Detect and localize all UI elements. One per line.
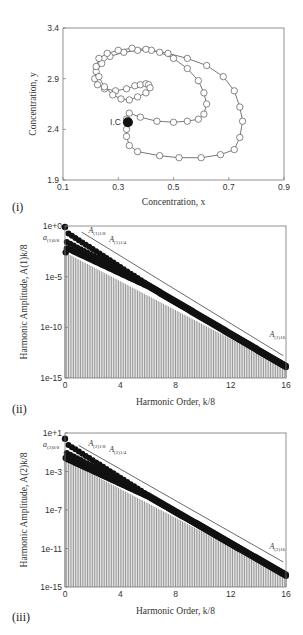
y-tick-label: 1.9: [47, 175, 59, 185]
x-axis-label: Harmonic Order, k/8: [136, 606, 215, 616]
x-tick-label: 8: [173, 589, 178, 599]
x-tick-label: 4: [118, 380, 123, 390]
trajectory-marker: [195, 77, 201, 83]
trajectory-marker: [96, 55, 102, 61]
x-tick-label: 16: [281, 589, 291, 599]
trajectory-marker: [143, 90, 149, 96]
trajectory-marker: [118, 96, 124, 102]
panel-label-i: (i): [12, 200, 23, 214]
trajectory-marker: [201, 90, 207, 96]
annotation-harmonic: A(2)1/8: [87, 439, 106, 449]
y-tick-label: 2.4: [47, 124, 59, 134]
x-tick-label: 8: [173, 380, 178, 390]
trajectory-marker: [94, 82, 100, 88]
x-tick-label: 12: [226, 589, 236, 599]
trajectory-marker: [115, 47, 121, 53]
y-tick-label: 1e-5: [45, 272, 62, 282]
trajectory-marker: [110, 92, 116, 98]
initial-condition-marker: [123, 117, 133, 127]
trajectory-marker: [154, 118, 160, 124]
annotation-dc: a(1)0/8: [43, 233, 60, 243]
y-axis-label: Concentration, y: [28, 72, 38, 136]
trajectory-marker: [129, 45, 135, 51]
trajectory-marker: [237, 104, 243, 110]
x-tick-label: 0.7: [223, 182, 235, 192]
y-tick-label: 1e-7: [45, 505, 62, 515]
trajectory-marker: [198, 155, 204, 161]
trajectory-marker: [104, 50, 110, 56]
trajectory-marker: [123, 86, 129, 92]
annotation-dc: a(2)0/8: [43, 440, 60, 450]
trajectory-marker: [126, 142, 132, 148]
trajectory-marker: [203, 62, 209, 68]
trajectory-marker: [217, 151, 223, 157]
trajectory-marker: [220, 73, 226, 79]
figure-canvas: 0.10.30.50.70.91.92.42.93.4Concentration…: [0, 0, 303, 635]
trajectory-marker: [184, 118, 190, 124]
x-tick-label: 0.5: [168, 182, 180, 192]
trajectory-marker: [165, 50, 171, 56]
harmonic-point: [62, 455, 68, 461]
trajectory-marker: [93, 63, 99, 69]
trajectory-marker: [126, 110, 132, 116]
trajectory-marker: [123, 133, 129, 139]
trajectory-marker: [184, 65, 190, 71]
chart-phase-portrait: 0.10.30.50.70.91.92.42.93.4Concentration…: [12, 23, 290, 214]
trajectory-marker: [184, 55, 190, 61]
initial-condition-label: I.C: [110, 117, 121, 127]
trajectory-marker: [101, 84, 107, 90]
trajectory-marker: [170, 55, 176, 61]
trajectory-marker: [201, 111, 207, 117]
x-axis-label: Concentration, x: [142, 197, 206, 207]
x-tick-label: 0: [63, 380, 68, 390]
trajectory-marker: [156, 152, 162, 158]
chart-harmonic-spectrum-2: 04812161e+11e-31e-71e-111e-15Harmonic Or…: [12, 428, 291, 624]
y-tick-label: 1e+0: [43, 221, 62, 231]
trajectory-marker: [96, 73, 102, 79]
chart-harmonic-spectrum-1: 04812161e+01e-51e-101e-15Harmonic Order,…: [12, 221, 291, 416]
x-axis-label: Harmonic Order, k/8: [136, 397, 215, 407]
x-tick-label: 0: [63, 589, 68, 599]
y-tick-label: 1e-11: [41, 544, 62, 554]
panel-label-ii: (ii): [12, 402, 27, 416]
x-tick-label: 4: [118, 589, 123, 599]
annotation-harmonic: A(1)1/8: [87, 226, 106, 236]
x-tick-label: 0.3: [112, 182, 124, 192]
trajectory-marker: [156, 49, 162, 55]
trajectory-marker: [176, 155, 182, 161]
trajectory-line: [95, 48, 243, 157]
y-tick-label: 1e-15: [40, 373, 62, 383]
y-axis-label: Harmonic Amplitude, A(1)k/8: [19, 244, 30, 359]
y-tick-label: 3.4: [47, 23, 59, 33]
y-tick-label: 2.9: [47, 74, 59, 84]
annotation-harmonic: A(1)16: [268, 330, 285, 340]
annotation-harmonic: A(2)1/4: [108, 445, 127, 455]
trajectory-marker: [170, 119, 176, 125]
trajectory-marker: [231, 88, 237, 94]
trajectory-marker: [143, 46, 149, 52]
annotation-harmonic: A(1)1/4: [108, 235, 127, 245]
trajectory-marker: [134, 94, 140, 100]
x-tick-label: 0.9: [278, 182, 290, 192]
trajectory-marker: [237, 134, 243, 140]
y-axis-label: Harmonic Amplitude, A(2)k/8: [19, 452, 30, 567]
y-tick-label: 1e-3: [45, 467, 62, 477]
trajectory-marker: [137, 114, 143, 120]
harmonic-point: [62, 249, 68, 255]
y-tick-label: 1e-10: [40, 322, 62, 332]
y-tick-label: 1e-15: [40, 582, 62, 592]
trajectory-marker: [126, 97, 132, 103]
x-tick-label: 12: [226, 380, 236, 390]
trajectory-marker: [203, 101, 209, 107]
trajectory-marker: [239, 118, 245, 124]
x-tick-label: 16: [281, 380, 291, 390]
trajectory-marker: [134, 148, 140, 154]
trajectory-marker: [231, 146, 237, 152]
annotation-harmonic: A(2)16: [268, 542, 285, 552]
panel-label-iii: (iii): [12, 610, 30, 624]
trajectory-marker: [195, 116, 201, 122]
y-tick-label: 1e+1: [43, 428, 62, 438]
